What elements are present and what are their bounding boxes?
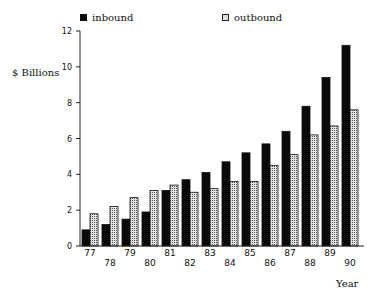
x-tick-label: 88: [304, 258, 316, 268]
bar-outbound-81: [170, 185, 178, 246]
x-axis: 7778798081828384858687888990: [80, 246, 364, 268]
x-tick-label: 89: [324, 248, 336, 258]
bar-inbound-90: [342, 45, 350, 246]
bar-inbound-87: [282, 131, 290, 246]
y-tick-label: 8: [67, 99, 72, 108]
bar-inbound-78: [102, 225, 110, 247]
bar-inbound-89: [322, 78, 330, 246]
x-tick-label: 90: [344, 258, 356, 268]
bar-inbound-77: [82, 230, 90, 246]
bar-outbound-90: [350, 110, 358, 246]
y-tick-label: 0: [67, 242, 72, 251]
bar-outbound-89: [330, 126, 338, 246]
bar-inbound-79: [122, 219, 130, 246]
bar-outbound-88: [310, 135, 318, 246]
x-tick-label: 77: [84, 248, 95, 258]
bar-inbound-80: [142, 212, 150, 246]
x-tick-label: 84: [224, 258, 236, 268]
bar-inbound-83: [202, 173, 210, 246]
bar-chart: 024681012 7778798081828384858687888990: [0, 0, 382, 297]
bar-outbound-85: [250, 182, 258, 247]
y-tick-label: 6: [67, 135, 72, 144]
bar-inbound-85: [242, 153, 250, 246]
bar-inbound-86: [262, 144, 270, 246]
y-tick-label: 12: [62, 27, 72, 36]
bar-inbound-84: [222, 162, 230, 246]
y-tick-label: 2: [67, 206, 72, 215]
bar-outbound-79: [130, 198, 138, 246]
x-tick-label: 81: [164, 248, 175, 258]
y-tick-label: 10: [62, 63, 72, 72]
bar-outbound-82: [190, 192, 198, 246]
bar-outbound-83: [210, 189, 218, 246]
bar-outbound-78: [110, 207, 118, 246]
bar-outbound-84: [230, 182, 238, 247]
x-tick-label: 82: [184, 258, 195, 268]
bar-outbound-86: [270, 165, 278, 246]
bars: [82, 45, 358, 246]
bar-inbound-88: [302, 106, 310, 246]
x-tick-label: 85: [244, 248, 255, 258]
x-tick-label: 86: [264, 258, 276, 268]
y-axis: 024681012: [62, 27, 80, 251]
bar-inbound-81: [162, 190, 170, 246]
x-tick-label: 78: [104, 258, 116, 268]
bar-outbound-87: [290, 155, 298, 246]
x-tick-label: 87: [284, 248, 295, 258]
bar-outbound-77: [90, 214, 98, 246]
bar-inbound-82: [182, 180, 190, 246]
x-tick-label: 80: [144, 258, 156, 268]
x-tick-label: 83: [204, 248, 215, 258]
bar-outbound-80: [150, 190, 158, 246]
y-tick-label: 4: [67, 170, 72, 179]
x-tick-label: 79: [124, 248, 136, 258]
